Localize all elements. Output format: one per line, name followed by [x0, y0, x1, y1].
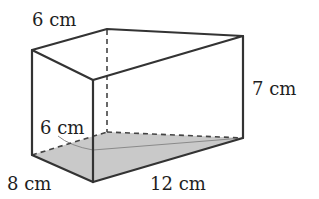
label-base-6cm: 6 cm — [40, 117, 84, 138]
label-base-12cm: 12 cm — [150, 173, 206, 194]
prism-diagram: 6 cm 7 cm 6 cm 8 cm 12 cm — [0, 0, 319, 199]
label-base-8cm: 8 cm — [7, 173, 51, 194]
top-face — [32, 29, 243, 80]
label-height-7cm: 7 cm — [252, 78, 296, 99]
label-top-6cm: 6 cm — [32, 9, 76, 30]
